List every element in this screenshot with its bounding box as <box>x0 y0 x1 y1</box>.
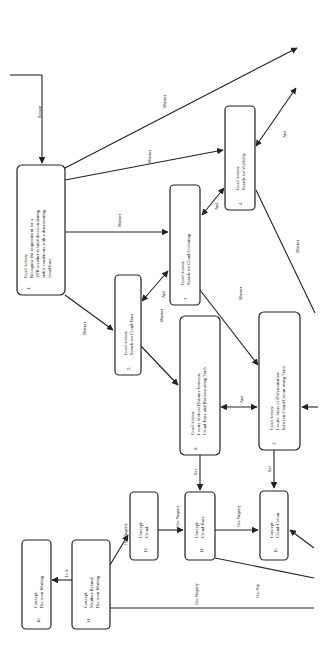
edge-manner-4-offpage <box>256 190 315 313</box>
edge-label-manner-5: Manner <box>159 308 164 322</box>
node-6-number: 6. <box>193 447 198 450</box>
edge-manner-to-4 <box>65 150 223 180</box>
node-11-line-3: Decision-Making <box>95 575 100 608</box>
edge-manner-offpage-1 <box>65 48 297 168</box>
edge-label-and-3-4: And <box>214 202 219 210</box>
edge-label-manner-3: Manner <box>117 213 122 227</box>
node-14-number: 14. <box>199 547 204 553</box>
edge-label-has-property-14-15: Has Property <box>236 504 241 527</box>
node-10-decision-making: 10. Concept: Decision-Making <box>22 540 51 629</box>
edge-label-and-4-offpage: And <box>282 130 287 138</box>
node-2-line-1: Goal/Action: <box>123 331 128 355</box>
node-14-line-2: Cloud-Base <box>200 516 205 538</box>
node-7-line-3: between Cloud Colour along Track <box>281 365 286 430</box>
node-1-recognise-requirement: 1. Goal/Action: Recognise the requiremen… <box>17 165 65 295</box>
node-2-search-cloud-base: 2. Goal/Action: Search for Cloud-Base <box>115 275 141 375</box>
node-1-line-5: cloud base <box>47 258 52 278</box>
node-2-number: 2. <box>126 367 131 370</box>
edge-label-manner-6: Manner <box>238 286 243 300</box>
edge-label-reason: Reason <box>37 105 42 118</box>
edge-label-is-a: Is-A <box>64 570 69 577</box>
node-4-number: 4. <box>238 202 243 205</box>
edge-label-manner-2: Manner <box>147 149 152 163</box>
node-13-line-2: Cloud <box>144 526 149 538</box>
edge-manner-2-6 <box>140 345 178 385</box>
node-4-line-1: Goal/Action: <box>235 166 240 190</box>
node-1-line-4: stable conditions with a deteriorating <box>41 209 46 278</box>
edge-label-manner-4-offpage: Manner <box>295 239 300 253</box>
node-15-line-1: Concept: <box>269 521 274 538</box>
edge-and-3-4 <box>202 188 224 215</box>
node-2-line-2: Search for Cloud-Base <box>129 313 134 355</box>
concept-map-diagram: Reason Manner Manner Manner Manner Manne… <box>0 0 335 669</box>
node-4-search-visibility: 4. Goal/Action: Search for Visibility <box>225 106 255 210</box>
node-6-locate-vertical-distance: 6. Goal/Action: Locate Vertical Distance… <box>180 316 220 455</box>
node-11-number: 11. <box>86 617 91 623</box>
node-6-line-1: Goal/Action: <box>190 411 195 435</box>
node-3-search-cloud-colouring: 3. Goal/Action: Search for Cloud Colouri… <box>170 185 200 305</box>
node-3-line-1: Goal/Action: <box>180 261 185 285</box>
edge-label-manner-1: Manner <box>162 94 167 108</box>
node-10-line-1: Concept: <box>33 591 38 608</box>
node-15-cloud-colour: 15. Concept: Cloud-Colour <box>260 491 288 560</box>
node-7-line-1: Goal/Action: <box>269 406 274 430</box>
edge-label-has-part: Has Part <box>255 583 260 598</box>
edge-label-has-property-11-offpage: Has Property <box>194 582 199 605</box>
edge-label-and-6-7: And <box>239 395 244 403</box>
edge-label-ref-6-14: Ref <box>193 468 198 475</box>
node-10-line-2: Decision-Making <box>39 575 44 608</box>
edge-label-has-property-11-13: Has Property <box>123 522 128 545</box>
node-14-line-1: Concept: <box>194 521 199 538</box>
edge-label-ref-7-15: Ref <box>267 465 272 472</box>
node-11-line-1: Concept: <box>83 591 88 608</box>
node-13-cloud: 13. Concept: Cloud <box>130 492 158 560</box>
edge-label-and-2-3: And <box>161 290 166 298</box>
edge-has-part-14-offpage <box>215 558 314 578</box>
edge-label-has-property-13-14: Has Property <box>175 504 180 527</box>
node-14-cloud-base: 14. Concept: Cloud-Base <box>185 492 215 560</box>
edge-into-15-offpage <box>290 530 314 548</box>
node-11-weather-related-decision-making: 11. Concept: Weather-Related Decision-Ma… <box>72 540 110 629</box>
node-11-line-2: Weather-Related <box>89 577 94 608</box>
edge-label-manner-4: Manner <box>82 321 87 335</box>
node-13-number: 13. <box>143 547 148 553</box>
node-6-line-2: Locate Vertical Distance between <box>196 373 201 435</box>
edge-and-4-offpage <box>256 88 296 146</box>
node-10-number: 10. <box>36 617 41 623</box>
node-1-line-3: VFR weather-related decision during <box>35 209 40 278</box>
node-7-number: 7. <box>272 442 277 445</box>
node-1-line-1: Goal/Action: <box>23 254 28 278</box>
node-1-line-2: Recognise the requirement for a <box>29 219 34 278</box>
edge-manner-to-2 <box>65 295 113 330</box>
node-15-line-2: Cloud-Colour <box>275 512 280 538</box>
node-3-number: 3. <box>183 297 188 300</box>
node-3-line-2: Search for Cloud Colouring <box>186 233 191 285</box>
node-4-line-2: Search for Visibility <box>241 152 246 190</box>
node-15-number: 15. <box>273 547 278 553</box>
node-1-number: 1. <box>26 287 31 290</box>
node-13-line-1: Concept: <box>138 521 143 538</box>
node-6-line-3: Cloud-Base and Horizon along Track <box>202 366 207 435</box>
node-7-locate-areas-differentiation: 7. Goal/Action: Locate Areas of Differen… <box>259 312 300 450</box>
node-7-line-2: Locate Areas of Differentiation <box>275 372 280 430</box>
